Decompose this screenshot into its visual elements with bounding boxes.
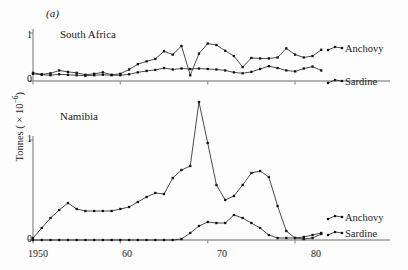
data-point-south-africa-anchovy [163,50,165,52]
data-point-namibia-sardine [180,238,182,240]
data-point-namibia-sardine [259,227,261,229]
data-point-namibia-anchovy [58,209,60,211]
data-point-namibia-anchovy [145,196,147,198]
data-point-namibia-sardine [172,239,174,241]
data-point-south-africa-sardine [242,72,244,74]
panel-label: (a) [46,8,59,19]
data-point-namibia-sardine [163,239,165,241]
data-point-south-africa-sardine [268,65,270,67]
data-point-south-africa-anchovy [137,63,139,65]
data-point-south-africa-anchovy [198,52,200,54]
data-point-namibia-sardine [268,234,270,236]
data-point-south-africa-sardine [224,69,226,71]
data-point-namibia-anchovy [128,206,130,208]
data-point-namibia-anchovy [215,184,217,186]
legend-label-south-africa-sardine: Sardine [345,77,377,88]
data-point-namibia-anchovy [268,176,270,178]
y-tick-south-africa-1: 1 [27,30,32,40]
data-point-namibia-anchovy [84,210,86,212]
data-point-namibia-sardine [137,239,139,241]
series-line-namibia-anchovy [33,102,321,239]
data-point-south-africa-sardine [110,74,112,76]
data-point-namibia-sardine [250,222,252,224]
data-point-namibia-anchovy [49,217,51,219]
series-line-south-africa-anchovy [33,44,321,76]
data-point-south-africa-anchovy [102,71,104,73]
data-point-namibia-anchovy [93,210,95,212]
data-point-south-africa-anchovy [154,58,156,60]
data-point-south-africa-anchovy [224,50,226,52]
data-point-south-africa-sardine [49,74,51,76]
data-point-namibia-anchovy [119,208,121,210]
data-point-south-africa-sardine [41,74,43,76]
data-point-namibia-anchovy [311,237,313,239]
data-point-south-africa-anchovy [320,49,322,51]
data-point-namibia-anchovy [180,169,182,171]
data-point-namibia-anchovy [163,193,165,195]
legend-label-south-africa-anchovy: Anchovy [345,44,384,55]
data-point-namibia-sardine [93,239,95,241]
data-point-namibia-sardine [311,234,313,236]
legend-marker-south-africa-sardine [327,82,329,84]
panel-title-south-africa: South Africa [60,29,116,40]
data-point-namibia-anchovy [76,208,78,210]
data-point-south-africa-anchovy [268,57,270,59]
data-point-namibia-anchovy [233,195,235,197]
data-point-south-africa-sardine [276,67,278,69]
data-point-namibia-anchovy [137,201,139,203]
legend-marker-namibia-anchovy [341,216,343,218]
data-point-namibia-sardine [233,214,235,216]
figure-container: (a) South Africa Namibia Anchovy Sardine… [0,0,408,270]
data-point-south-africa-sardine [145,70,147,72]
data-point-namibia-sardine [84,239,86,241]
data-point-south-africa-sardine [215,68,217,70]
data-point-south-africa-sardine [207,68,209,70]
data-point-south-africa-sardine [180,67,182,69]
data-point-south-africa-anchovy [311,55,313,57]
data-point-south-africa-anchovy [128,68,130,70]
data-point-south-africa-sardine [285,69,287,71]
legend-label-namibia-sardine: Sardine [345,229,377,240]
data-point-namibia-anchovy [172,177,174,179]
data-point-namibia-sardine [58,239,60,241]
data-point-south-africa-sardine [119,74,121,76]
data-point-namibia-anchovy [276,205,278,207]
data-point-south-africa-sardine [311,65,313,67]
data-point-south-africa-sardine [102,74,104,76]
data-point-south-africa-sardine [250,71,252,73]
data-point-namibia-anchovy [259,170,261,172]
data-point-namibia-sardine [32,239,34,241]
data-point-namibia-anchovy [189,165,191,167]
data-point-namibia-sardine [119,239,121,241]
data-point-namibia-sardine [303,236,305,238]
data-point-namibia-sardine [294,237,296,239]
data-point-south-africa-sardine [128,73,130,75]
data-point-namibia-sardine [215,222,217,224]
data-point-namibia-anchovy [198,101,200,103]
data-point-namibia-anchovy [303,238,305,240]
data-point-namibia-anchovy [285,230,287,232]
data-point-south-africa-anchovy [76,72,78,74]
data-point-south-africa-sardine [198,67,200,69]
data-point-south-africa-sardine [93,74,95,76]
data-point-south-africa-anchovy [242,66,244,68]
data-point-namibia-sardine [207,221,209,223]
data-point-namibia-anchovy [224,199,226,201]
data-point-south-africa-anchovy [303,56,305,58]
data-point-south-africa-sardine [320,69,322,71]
data-point-south-africa-anchovy [250,57,252,59]
x-tick-1950: 1950 [28,249,48,259]
data-point-south-africa-anchovy [67,71,69,73]
series-line-namibia-sardine [33,215,321,240]
data-point-namibia-sardine [198,225,200,227]
data-point-namibia-sardine [145,239,147,241]
data-point-namibia-sardine [49,239,51,241]
data-point-south-africa-sardine [84,75,86,77]
legend-marker-namibia-anchovy [334,215,336,217]
data-point-south-africa-sardine [259,68,261,70]
data-point-namibia-sardine [224,222,226,224]
data-point-namibia-sardine [242,217,244,219]
data-point-namibia-sardine [102,239,104,241]
legend-marker-namibia-sardine [334,231,336,233]
panel-title-namibia: Namibia [60,111,98,122]
